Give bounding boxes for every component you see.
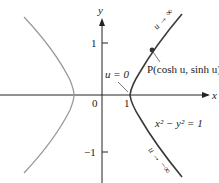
x-axis-label: x [211, 89, 217, 101]
y-tick-label-neg1: −1 [84, 146, 96, 158]
point-p-marker [150, 48, 155, 53]
vertex-leader [118, 82, 128, 92]
y-axis-label: y [97, 4, 103, 16]
point-p-label: P(cosh u, sinh u) [147, 63, 219, 76]
y-axis-arrow-icon [99, 18, 105, 26]
vertex-label: u = 0 [105, 68, 129, 80]
y-tick-label-1: 1 [91, 37, 97, 49]
x-tick-label-0: 0 [92, 97, 98, 109]
x-tick-label-1: 1 [124, 97, 130, 109]
x-axis-arrow-icon [202, 92, 210, 98]
hyperbola-diagram: y x 1 −1 0 1 u = 0 P(cosh u, sinh u) x² … [0, 0, 219, 183]
point-p-leader [153, 52, 160, 62]
equation-label: x² − y² = 1 [154, 117, 203, 129]
